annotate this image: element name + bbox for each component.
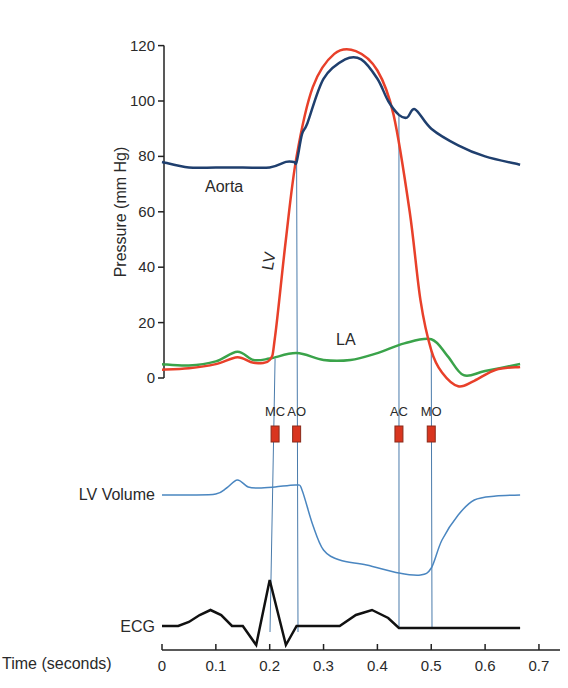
valve-event-label-mo: MO (421, 404, 442, 419)
x-tick-label: 0.5 (421, 657, 442, 674)
valve-event-label-ac: AC (390, 404, 408, 419)
valve-event-label-mc: MC (265, 404, 285, 419)
cardiac-cycle-chart: 020406080100120 Pressure (mm Hg) Aorta L… (0, 0, 568, 688)
y-tick-label: 20 (138, 314, 155, 331)
pressure-y-axis: 020406080100120 (130, 37, 164, 386)
valve-marker-ao (293, 426, 301, 442)
aorta-label: Aorta (205, 178, 243, 195)
time-x-axis: 00.10.20.30.40.50.60.7 (158, 644, 560, 674)
valve-marker-mo (427, 426, 435, 442)
y-tick-label: 60 (138, 203, 155, 220)
valve-event-label-ao: AO (287, 404, 306, 419)
x-tick-label: 0.6 (475, 657, 496, 674)
y-tick-label: 120 (130, 37, 155, 54)
valve-event-markers: MCAOACMO (265, 404, 442, 442)
time-axis-label: Time (seconds) (2, 655, 112, 672)
lv-label: LV (259, 250, 279, 271)
y-tick-label: 80 (138, 147, 155, 164)
valve-marker-ac (395, 426, 403, 442)
la-label: LA (336, 331, 356, 348)
x-tick-label: 0.3 (313, 657, 334, 674)
valve-marker-mc (271, 426, 279, 442)
y-tick-label: 40 (138, 258, 155, 275)
x-tick-label: 0.7 (529, 657, 550, 674)
ecg-label: ECG (120, 618, 155, 635)
x-tick-label: 0.2 (259, 657, 280, 674)
ecg-curve (162, 580, 520, 645)
x-tick-label: 0.4 (367, 657, 388, 674)
lv-volume-label: LV Volume (79, 486, 155, 503)
x-tick-label: 0 (158, 657, 166, 674)
aorta-pressure-curve (162, 57, 520, 168)
pressure-axis-label: Pressure (mm Hg) (112, 147, 129, 278)
y-tick-label: 0 (147, 369, 155, 386)
lv-volume-curve (162, 480, 520, 575)
x-tick-label: 0.1 (205, 657, 226, 674)
y-tick-label: 100 (130, 92, 155, 109)
